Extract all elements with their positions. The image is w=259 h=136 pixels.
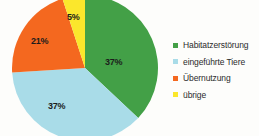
slice-label-uebernutzung: 21% bbox=[31, 36, 48, 46]
slice-label-habitatzerstoerung: 37% bbox=[105, 57, 122, 67]
chart-legend: Habitatzerstörung eingeführte Tiere Über… bbox=[173, 37, 259, 103]
legend-swatch-icon bbox=[173, 92, 178, 97]
legend-item-label: Übernutzung bbox=[183, 73, 231, 83]
legend-item-uebernutzung: Übernutzung bbox=[173, 70, 259, 87]
legend-swatch-icon bbox=[173, 76, 178, 81]
legend-item-habitatzerstoerung: Habitatzerstörung bbox=[173, 37, 259, 54]
legend-item-label: eingeführte Tiere bbox=[183, 57, 245, 67]
legend-item-uebrige: übrige bbox=[173, 87, 259, 104]
legend-swatch-icon bbox=[173, 59, 178, 64]
slice-label-eingefuehrte-tiere: 37% bbox=[48, 101, 65, 111]
pie-plot-area: 37% 37% 21% 5% bbox=[0, 0, 170, 136]
legend-item-eingefuehrte-tiere: eingeführte Tiere bbox=[173, 54, 259, 71]
legend-item-label: Habitatzerstörung bbox=[183, 40, 248, 50]
pie-chart-figure: 37% 37% 21% 5% Habitatzerstörung eingefü… bbox=[0, 0, 259, 136]
legend-swatch-icon bbox=[173, 43, 178, 48]
pie-slice-group bbox=[12, 0, 158, 136]
legend-item-label: übrige bbox=[183, 90, 206, 100]
slice-label-uebrige: 5% bbox=[67, 12, 80, 22]
pie-svg bbox=[0, 0, 170, 136]
